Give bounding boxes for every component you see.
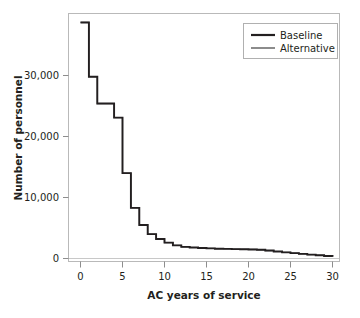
- legend-label-baseline: Baseline: [280, 30, 322, 41]
- y-tick-label-0: 0: [53, 253, 59, 264]
- personnel-by-years-of-service-chart: 30,000 20,000 10,000 0 0 5 10 15 20 25 3…: [0, 0, 360, 318]
- y-tick-label-10000: 10,000: [24, 192, 59, 203]
- x-tick-label-15: 15: [200, 271, 213, 282]
- x-tick-label-0: 0: [77, 271, 83, 282]
- x-tick-label-25: 25: [284, 271, 297, 282]
- y-tick-label-20000: 20,000: [24, 131, 59, 142]
- chart-legend: Baseline Alternative: [244, 24, 338, 59]
- y-axis-title: Number of personnel: [12, 75, 24, 200]
- chart-figure: 30,000 20,000 10,000 0 0 5 10 15 20 25 3…: [0, 0, 360, 318]
- x-tick-label-30: 30: [326, 271, 339, 282]
- x-tick-label-5: 5: [119, 271, 125, 282]
- x-tick-label-20: 20: [242, 271, 255, 282]
- x-axis-title: AC years of service: [147, 289, 260, 301]
- legend-label-alternative: Alternative: [280, 43, 335, 54]
- x-tick-label-10: 10: [158, 271, 171, 282]
- y-tick-label-30000: 30,000: [24, 70, 59, 81]
